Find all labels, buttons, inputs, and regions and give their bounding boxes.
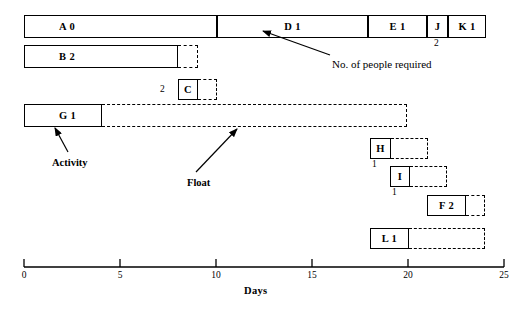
gantt-float-i xyxy=(410,166,447,187)
gantt-bar-f-label: F 2 xyxy=(439,200,454,211)
gantt-float-l xyxy=(409,228,485,249)
annotation-float: Float xyxy=(187,177,210,188)
gantt-bar-k-label: K 1 xyxy=(458,21,475,32)
axis-tick-label-20: 20 xyxy=(393,270,423,280)
gantt-bar-j[interactable]: J xyxy=(427,15,448,38)
axis-tick-label-15: 15 xyxy=(297,270,327,280)
gantt-bar-c-label: C xyxy=(184,84,192,95)
gantt-bar-i-label: I xyxy=(398,171,403,182)
gantt-bar-k[interactable]: K 1 xyxy=(448,15,486,38)
annotation-activity: Activity xyxy=(52,157,88,168)
arrow-float xyxy=(196,129,237,172)
gantt-bar-c[interactable]: C xyxy=(178,79,198,100)
gantt-bar-a-label: A 0 xyxy=(59,21,75,32)
gantt-bar-g[interactable]: G 1 xyxy=(24,104,102,127)
gantt-float-h xyxy=(391,138,428,159)
gantt-bar-e-label: E 1 xyxy=(389,21,405,32)
gantt-bar-b[interactable]: B 2 xyxy=(24,45,178,68)
gantt-bar-g-label: G 1 xyxy=(59,110,76,121)
gantt-bar-h-label: H xyxy=(376,143,385,154)
gantt-bar-l-label: L 1 xyxy=(382,233,398,244)
gantt-bar-a[interactable]: A 0 xyxy=(24,15,217,38)
gantt-bar-e[interactable]: E 1 xyxy=(368,15,427,38)
arrow-activity xyxy=(55,128,68,152)
gantt-bar-j-people: 2 xyxy=(434,38,439,48)
gantt-bar-l[interactable]: L 1 xyxy=(370,228,409,249)
gantt-bar-b-label: B 2 xyxy=(59,51,75,62)
axis-tick-label-5: 5 xyxy=(105,270,135,280)
gantt-float-c xyxy=(198,79,217,100)
gantt-float-f xyxy=(466,195,485,216)
axis-title: Days xyxy=(244,285,267,296)
gantt-bar-d[interactable]: D 1 xyxy=(217,15,368,38)
gantt-bar-f[interactable]: F 2 xyxy=(427,195,466,216)
axis-tick-label-25: 25 xyxy=(489,270,519,280)
gantt-bar-j-label: J xyxy=(435,21,441,32)
gantt-bar-c-people: 2 xyxy=(160,84,165,94)
gantt-bar-i-people: 1 xyxy=(392,187,397,197)
gantt-bar-i[interactable]: I xyxy=(390,166,410,187)
axis-tick-label-10: 10 xyxy=(201,270,231,280)
gantt-float-g xyxy=(102,104,407,127)
gantt-chart: A 0 D 1 E 1 J 2 K 1 B 2 2 C G 1 H 1 I 1 … xyxy=(0,0,523,310)
axis-tick-label-0: 0 xyxy=(9,270,39,280)
gantt-bar-d-label: D 1 xyxy=(284,21,301,32)
annotation-people-required: No. of people required xyxy=(332,58,432,70)
gantt-bar-h-people: 1 xyxy=(372,159,377,169)
gantt-bar-h[interactable]: H xyxy=(370,138,391,159)
gantt-float-b xyxy=(178,45,198,68)
